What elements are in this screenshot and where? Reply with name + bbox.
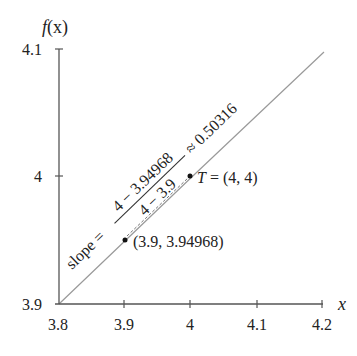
y-tick-label: 3.9	[22, 296, 42, 313]
x-tick-label: 4.2	[312, 316, 332, 333]
point-T-label: T = (4, 4)	[197, 169, 258, 187]
slope-approx: ≈ 0.50316	[182, 100, 240, 157]
slope-prefix: slope =	[62, 227, 108, 272]
x-tick-label: 3.9	[114, 316, 134, 333]
x-tick-label: 3.8	[48, 316, 68, 333]
point-P	[123, 238, 128, 243]
chart-canvas: 4.1 4 3.9 3.8 3.9 4 4.1 4.2 x f(x) T = (…	[0, 0, 357, 356]
point-P-label: (3.9, 3.94968)	[133, 233, 224, 251]
x-tick-label: 4.1	[247, 316, 267, 333]
point-T-label-rest: = (4, 4)	[206, 169, 258, 187]
y-tick-label: 4	[34, 168, 42, 185]
x-tick-label: 4	[186, 316, 194, 333]
y-tick-label: 4.1	[22, 41, 42, 58]
point-T	[188, 174, 193, 179]
slope-annotation: slope = 4 − 3.94968 4 − 3.9 ≈ 0.50316	[56, 93, 248, 281]
x-axis-label: x	[337, 294, 346, 314]
y-axis-label-rest: (x)	[47, 17, 68, 38]
y-axis-label: f(x)	[42, 17, 68, 38]
